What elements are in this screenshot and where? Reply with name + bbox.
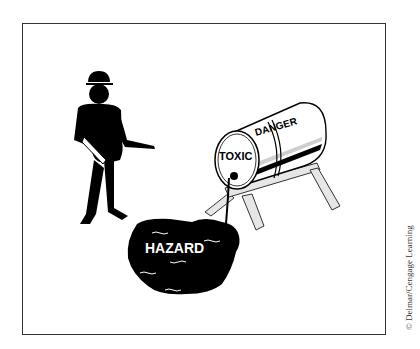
barrel-end-label: TOXIC [219,150,252,162]
copyright-credit: © Delmar/Cengage Learning [404,225,414,330]
hazard-illustration: TOXIC DANGER HAZARD [0,0,420,349]
hazard-puddle: HAZARD [128,219,240,294]
toxic-barrel: TOXIC DANGER [215,103,326,189]
hard-hat-icon [88,71,110,83]
puddle-label: HAZARD [145,240,204,256]
worker-figure [74,71,155,224]
spigot-icon [230,172,238,180]
